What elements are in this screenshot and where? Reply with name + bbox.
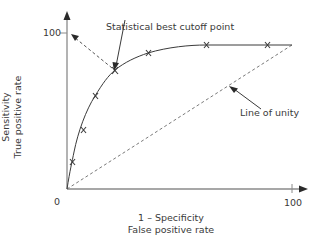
x-axis bbox=[67, 184, 308, 193]
y-axis-title-line2: True positive rate bbox=[12, 76, 24, 159]
y-axis-title-line1: Sensitivity bbox=[0, 76, 12, 159]
x-axis-title-line1: 1 – Specificity bbox=[96, 212, 246, 224]
x-marker-icon bbox=[81, 127, 86, 133]
y-axis-arrow-icon bbox=[64, 11, 71, 20]
x-axis-arrow-icon bbox=[299, 186, 308, 193]
x-marker-icon bbox=[93, 93, 98, 99]
y-axis-title: Sensitivity True positive rate bbox=[6, 0, 18, 244]
arrowhead-icon bbox=[229, 86, 238, 93]
roc-markers bbox=[70, 42, 270, 165]
best-cutoff-label: Statistical best cutoff point bbox=[106, 21, 234, 33]
line-of-unity-label: Line of unity bbox=[240, 107, 299, 119]
cutoff-to-ideal-dashed-arrow bbox=[74, 37, 112, 68]
origin-label: 0 bbox=[54, 196, 60, 208]
x-axis-title: 1 – Specificity False positive rate bbox=[96, 212, 246, 236]
x-axis-title-line2: False positive rate bbox=[96, 224, 246, 236]
y-axis bbox=[60, 11, 71, 189]
y-tick-label-100: 100 bbox=[43, 27, 61, 39]
line-of-unity-pointer bbox=[234, 89, 261, 109]
x-tick-label-100: 100 bbox=[284, 197, 302, 209]
